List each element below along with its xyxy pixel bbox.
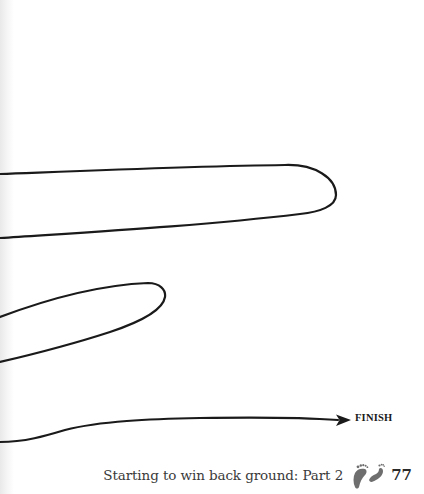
maze-loop-middle <box>0 283 165 362</box>
workbook-page: FINISH Starting to win back ground: Part… <box>0 0 424 494</box>
footprints-icon <box>349 461 385 489</box>
page-footer: Starting to win back ground: Part 2 77 <box>103 462 412 488</box>
page-number: 77 <box>391 466 412 484</box>
maze-finish-line <box>0 418 338 442</box>
finish-label: FINISH <box>355 412 392 423</box>
maze-loop-upper <box>0 165 336 238</box>
running-head: Starting to win back ground: Part 2 <box>103 467 343 483</box>
